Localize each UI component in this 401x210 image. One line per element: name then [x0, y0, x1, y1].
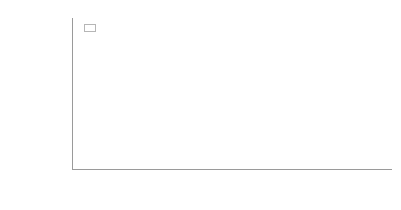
bars-layer [73, 18, 392, 169]
x-axis-tick-labels [72, 174, 392, 194]
stacked-bar-chart [0, 0, 401, 210]
chart-legend [84, 24, 96, 32]
y-axis-tick-labels [26, 18, 68, 170]
plot-area [72, 18, 392, 170]
